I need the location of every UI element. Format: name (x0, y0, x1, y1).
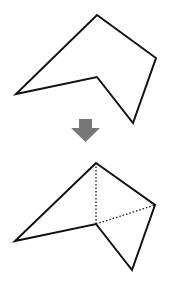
diagonal-slanted-dotted (96, 205, 155, 224)
diagram-canvas (0, 0, 172, 288)
original-polygon (16, 15, 156, 123)
divided-polygon (15, 163, 155, 270)
down-arrow-icon (71, 119, 100, 142)
